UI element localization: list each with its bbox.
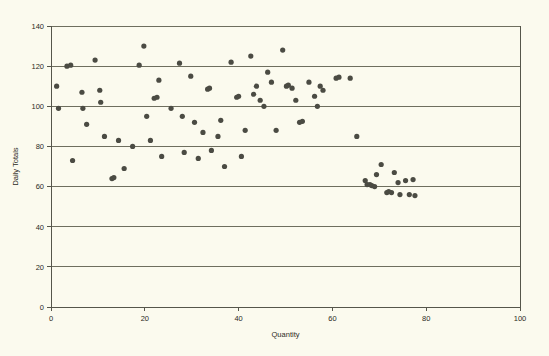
data-point	[254, 84, 259, 89]
chart-canvas: 020406080100120140020406080100QuantityDa…	[0, 0, 549, 356]
data-point	[315, 104, 320, 109]
data-point	[116, 138, 121, 143]
data-point	[207, 86, 212, 91]
data-point	[403, 178, 408, 183]
data-point	[70, 158, 75, 163]
data-point	[102, 134, 107, 139]
data-point	[248, 54, 253, 59]
x-axis-title: Quantity	[272, 330, 300, 339]
data-point	[274, 128, 279, 133]
y-tick-label-20: 20	[36, 263, 44, 272]
y-tick-label-60: 60	[36, 182, 44, 191]
axes-group	[47, 26, 520, 311]
data-point	[159, 154, 164, 159]
data-point	[97, 88, 102, 93]
data-point	[236, 94, 241, 99]
data-point	[98, 100, 103, 105]
data-point	[258, 98, 263, 103]
data-point	[395, 180, 400, 185]
data-point	[392, 170, 397, 175]
data-point	[180, 114, 185, 119]
data-point	[379, 162, 384, 167]
y-tick-label-80: 80	[36, 142, 44, 151]
data-point	[130, 144, 135, 149]
data-point	[156, 78, 161, 83]
x-tick-label-20: 20	[141, 314, 149, 323]
data-point	[209, 148, 214, 153]
data-point	[372, 184, 377, 189]
data-point	[280, 47, 285, 52]
y-tick-label-100: 100	[31, 102, 44, 111]
data-point	[200, 130, 205, 135]
data-point	[177, 61, 182, 66]
data-point	[154, 95, 159, 100]
y-tick-label-0: 0	[40, 303, 44, 312]
x-tick-label-40: 40	[234, 314, 242, 323]
data-point	[312, 94, 317, 99]
data-point	[374, 172, 379, 177]
x-tick-label-0: 0	[49, 314, 53, 323]
y-tick-label-40: 40	[36, 223, 44, 232]
data-point	[188, 74, 193, 79]
data-point	[261, 104, 266, 109]
axis-labels-group: 020406080100120140020406080100QuantityDa…	[11, 22, 526, 339]
data-point	[397, 192, 402, 197]
data-point	[111, 175, 116, 180]
data-point	[79, 90, 84, 95]
data-points-group	[54, 43, 418, 198]
data-point	[122, 166, 127, 171]
data-point	[92, 58, 97, 63]
data-point	[293, 98, 298, 103]
data-point	[239, 154, 244, 159]
data-point	[54, 84, 59, 89]
y-axis-title: Daily Totals	[11, 147, 20, 185]
data-point	[389, 190, 394, 195]
data-point	[148, 138, 153, 143]
data-point	[348, 76, 353, 81]
data-point	[215, 134, 220, 139]
data-point	[412, 193, 417, 198]
data-point	[144, 114, 149, 119]
gridlines-group	[51, 26, 520, 267]
data-point	[229, 60, 234, 65]
data-point	[196, 156, 201, 161]
scatter-chart: 020406080100120140020406080100QuantityDa…	[0, 0, 549, 356]
data-point	[192, 120, 197, 125]
data-point	[141, 43, 146, 48]
data-point	[251, 92, 256, 97]
data-point	[320, 88, 325, 93]
data-point	[56, 106, 61, 111]
data-point	[243, 128, 248, 133]
data-point	[222, 164, 227, 169]
x-tick-label-60: 60	[328, 314, 336, 323]
data-point	[300, 119, 305, 124]
data-point	[269, 80, 274, 85]
data-point	[336, 75, 341, 80]
y-tick-label-120: 120	[31, 62, 44, 71]
x-tick-label-100: 100	[514, 314, 527, 323]
data-point	[137, 63, 142, 68]
y-tick-label-140: 140	[31, 22, 44, 31]
data-point	[182, 150, 187, 155]
x-tick-label-80: 80	[422, 314, 430, 323]
data-point	[407, 192, 412, 197]
data-point	[306, 80, 311, 85]
data-point	[168, 106, 173, 111]
data-point	[265, 70, 270, 75]
data-point	[354, 134, 359, 139]
data-point	[80, 106, 85, 111]
data-point	[68, 63, 73, 68]
data-point	[218, 118, 223, 123]
data-point	[289, 86, 294, 91]
data-point	[410, 177, 415, 182]
data-point	[84, 122, 89, 127]
